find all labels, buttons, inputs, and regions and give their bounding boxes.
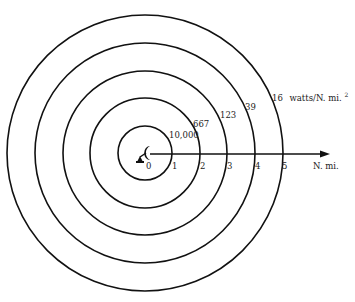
axis-unit-label: N. mi.: [313, 161, 339, 171]
tick-3: 3: [227, 161, 232, 171]
density-label-ring-4: 39: [245, 102, 256, 112]
tick-1: 1: [172, 161, 177, 171]
density-label-ring-2: 667: [193, 119, 209, 129]
tick-labels: 0 1 2 3 4 5 N. mi.: [146, 161, 339, 171]
tick-4: 4: [255, 161, 260, 171]
tick-5: 5: [282, 161, 287, 171]
power-density-diagram: 0 1 2 3 4 5 N. mi. 10,000 667 123 39 16 …: [0, 0, 355, 302]
range-axis: [150, 151, 330, 158]
density-label-ring-1: 10,000: [169, 130, 199, 140]
density-unit-label: watts/N. mi.: [290, 93, 342, 103]
density-unit-superscript: 2: [344, 91, 348, 98]
density-value-ring-5: 16: [272, 93, 283, 103]
density-label-ring-3: 123: [220, 110, 236, 120]
density-label-ring-5: 16 watts/N. mi. 2: [272, 91, 348, 103]
density-labels: 10,000 667 123 39 16 watts/N. mi. 2: [169, 91, 348, 140]
axis-arrowhead-icon: [320, 151, 330, 158]
tick-2: 2: [200, 161, 205, 171]
tick-0: 0: [146, 161, 151, 171]
